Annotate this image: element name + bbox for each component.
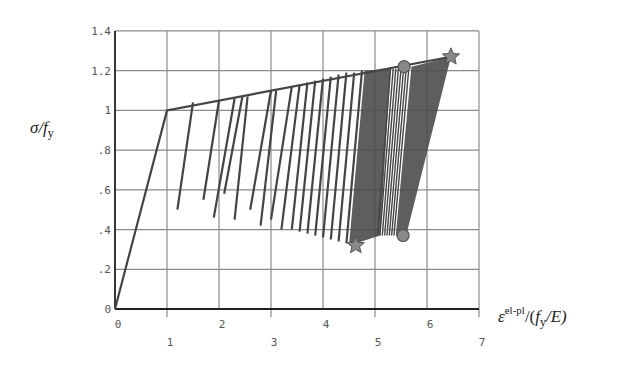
unloading-line — [307, 79, 323, 234]
y-tick-label: .4 — [98, 224, 112, 237]
y-tick-label: 1.4 — [91, 25, 111, 38]
x-tick-label: 0 — [115, 318, 122, 331]
x-tick-label: 2 — [219, 318, 226, 331]
x-tick-label: 4 — [323, 318, 330, 331]
y-tick-label: .8 — [98, 144, 111, 157]
x-tick-label: 3 — [271, 336, 278, 349]
chart: 0.2.4.6.811.21.401234567 σ/fy εel-pl/(fy… — [0, 0, 629, 368]
circle-marker-icon — [397, 230, 409, 242]
circle-marker-icon — [398, 61, 410, 73]
x-tick-label: 5 — [375, 336, 382, 349]
x-tick-label: 6 — [427, 318, 434, 331]
unloading-line — [177, 102, 193, 209]
unloading-line — [292, 83, 308, 230]
unloading-line — [323, 75, 339, 238]
y-tick-label: .2 — [98, 263, 111, 276]
x-tick-label: 1 — [167, 336, 174, 349]
dense-band — [396, 57, 451, 236]
y-tick-label: 1.2 — [91, 65, 111, 78]
unloading-line — [235, 96, 248, 219]
unloading-line — [300, 81, 316, 232]
y-tick-label: 1 — [104, 104, 111, 117]
y-axis-label: σ/fy — [30, 118, 54, 140]
x-axis-label: εel-pl/(fy/E) — [498, 304, 567, 329]
y-tick-label: .6 — [98, 184, 111, 197]
unloading-line — [331, 73, 347, 240]
x-tick-label: 7 — [479, 336, 486, 349]
unloading-line — [281, 85, 299, 230]
y-tick-label: 0 — [104, 303, 111, 316]
